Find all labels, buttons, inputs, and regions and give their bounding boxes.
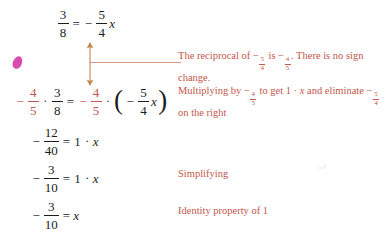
fraction-denominator: 8 [59, 26, 68, 40]
fraction-twelve-fortieths: 12 40 [42, 126, 60, 158]
fraction-numerator: 3 [53, 86, 62, 100]
minus-sign: − [77, 95, 89, 108]
fraction-three-tenths: 3 10 [42, 200, 60, 232]
inline-fraction-five-fourths: 5 4 [372, 91, 379, 107]
faint-scan-artifact [318, 156, 328, 164]
variable-x: x [92, 135, 99, 148]
variable-x: x [73, 209, 80, 222]
fraction-numerator: 4 [92, 86, 101, 100]
equals-sign: = [60, 172, 72, 185]
note-text-segment: and eliminate [304, 85, 366, 96]
equals-sign: = [60, 209, 72, 222]
fraction-three-eighths: 3 8 [56, 8, 70, 40]
equation-line-5: − 3 10 = x [30, 200, 79, 232]
fraction-numerator: 5 [97, 8, 106, 22]
fraction-denominator: 10 [44, 181, 59, 195]
fraction-numerator: 5 [139, 86, 148, 100]
fraction-denominator: 8 [53, 104, 62, 118]
multiplication-dot: · [103, 95, 113, 107]
fraction-numerator: 5 [374, 91, 378, 98]
fraction-numerator: 12 [44, 126, 59, 140]
fraction-three-eighths: 3 8 [50, 86, 64, 118]
fraction-numerator: 5 [261, 56, 265, 63]
inline-fraction-four-fifths: 4 5 [284, 56, 291, 72]
fraction-denominator: 4 [374, 100, 378, 107]
minus-sign: − [30, 172, 42, 185]
multiplication-dot: · [82, 172, 92, 184]
fraction-denominator: 5 [252, 100, 256, 107]
fraction-five-fourths: 5 4 [136, 86, 150, 118]
equation-line-1: 3 8 = − 5 4 x [56, 8, 115, 40]
variable-x: x [92, 172, 99, 185]
fraction-denominator: 5 [286, 65, 290, 72]
fraction-three-tenths: 3 10 [42, 163, 60, 195]
right-parenthesis: ) [157, 90, 168, 112]
numeral-one: 1 [73, 135, 83, 148]
minus-sign: − [124, 95, 136, 108]
fraction-denominator: 10 [44, 218, 59, 232]
fraction-five-fourths: 5 4 [95, 8, 109, 40]
pink-ink-mark [11, 55, 25, 71]
annotation-arrow-group [84, 40, 184, 88]
note-text-segment: The reciprocal of [178, 50, 253, 61]
note-simplifying: Simplifying [178, 168, 378, 180]
fraction-denominator: 4 [139, 104, 148, 118]
fraction-numerator: 3 [47, 163, 56, 177]
fraction-numerator: 3 [47, 200, 56, 214]
fraction-numerator: 3 [59, 8, 68, 22]
inline-fraction-five-fourths: 5 4 [259, 56, 266, 72]
note-text-segment: to get 1 · [257, 85, 300, 96]
fraction-denominator: 4 [97, 26, 106, 40]
note-text-segment: Multiplying by [178, 85, 244, 96]
note-text-segment: on the right [178, 107, 226, 118]
equation-line-3: − 12 40 = 1 · x [30, 126, 99, 158]
minus-sign: − [30, 209, 42, 222]
fraction-four-fifths-left: 4 5 [26, 86, 40, 118]
fraction-numerator: 4 [252, 91, 256, 98]
equals-sign: = [64, 95, 76, 108]
multiplication-dot: · [82, 135, 92, 147]
note-identity-property: Identity property of 1 [178, 205, 378, 217]
variable-x: x [109, 17, 116, 30]
note-text-segment: is [266, 50, 278, 61]
equation-line-2: − 4 5 · 3 8 = − 4 5 · ( − 5 4 x ) [14, 86, 168, 118]
inline-fraction-four-fifths: 4 5 [250, 91, 257, 107]
fraction-denominator: 5 [92, 104, 101, 118]
fraction-denominator: 4 [261, 65, 265, 72]
fraction-four-fifths-right: 4 5 [89, 86, 103, 118]
minus-sign: − [82, 17, 94, 30]
multiplication-dot: · [40, 95, 50, 107]
left-parenthesis: ( [113, 90, 124, 112]
variable-x: x [150, 95, 157, 108]
minus-sign: − [30, 135, 42, 148]
fraction-denominator: 5 [29, 104, 38, 118]
minus-sign: − [14, 95, 26, 108]
equals-sign: = [60, 135, 72, 148]
note-multiplying: Multiplying by − 4 5 to get 1 · x and el… [178, 85, 382, 120]
equation-line-4: − 3 10 = 1 · x [30, 163, 99, 195]
fraction-numerator: 4 [29, 86, 38, 100]
fraction-denominator: 40 [44, 144, 59, 158]
note-reciprocal: The reciprocal of − 5 4 is − 4 5 . There… [178, 50, 384, 85]
equals-sign: = [70, 17, 82, 30]
worked-example-canvas: 3 8 = − 5 4 x The reciprocal of − 5 [0, 0, 387, 234]
fraction-numerator: 4 [286, 56, 290, 63]
numeral-one: 1 [73, 172, 83, 185]
